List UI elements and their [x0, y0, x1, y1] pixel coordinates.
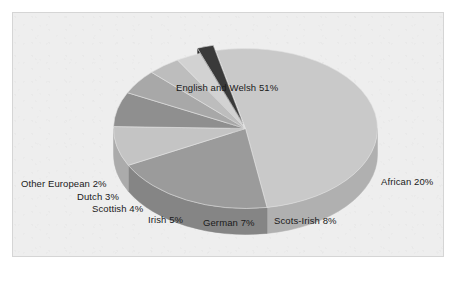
- slice-label-scots-irish: Scots-Irish 8%: [274, 215, 337, 226]
- slice-label-african: African 20%: [381, 176, 433, 187]
- slice-label-irish: Irish 5%: [148, 214, 183, 225]
- slice-label-other-european: Other European 2%: [21, 178, 107, 189]
- screenshot-root: English and Welsh 51% African 20% Scots-…: [0, 0, 456, 285]
- pie-chart: [0, 0, 456, 285]
- page-text-artifact: [0, 272, 456, 285]
- slice-label-dutch: Dutch 3%: [77, 191, 119, 202]
- slice-label-scottish: Scottish 4%: [92, 203, 143, 214]
- pie-top-faces: [114, 45, 378, 208]
- slice-label-german: German 7%: [203, 217, 255, 228]
- pie-geometry: [114, 45, 378, 234]
- slice-label-english-and-welsh: English and Welsh 51%: [176, 82, 278, 93]
